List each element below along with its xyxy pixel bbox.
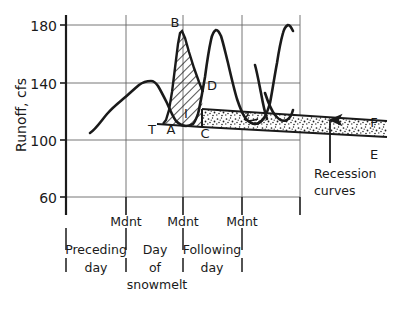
- annotation-recession-line2: curves: [314, 183, 356, 198]
- point-label-F: F: [370, 115, 377, 130]
- x-tick-label-midnight-1: Mdnt: [110, 214, 142, 229]
- point-label-D: D: [207, 78, 217, 93]
- annotation-recession-line1: Recession: [314, 166, 376, 181]
- x-tick-label-midnight-3: Mdnt: [226, 214, 258, 229]
- recession-band-region: [202, 109, 387, 137]
- x-tick-label-midnight-2: Mdnt: [167, 214, 199, 229]
- point-label-E: E: [370, 147, 378, 162]
- point-label-T: T: [147, 122, 156, 137]
- hydrograph-figure: 180 140 100 60 Runoff, cfs Mdnt Mdnt Mdn…: [0, 0, 399, 317]
- point-label-A: A: [167, 122, 176, 137]
- x-group-snowmelt-line3: snowmelt: [127, 277, 188, 292]
- y-tick-label-180: 180: [30, 18, 57, 34]
- y-tick-label-60: 60: [39, 190, 57, 206]
- y-axis: [60, 15, 66, 215]
- point-label-I: I: [184, 106, 188, 121]
- x-group-following-line1: Following: [183, 242, 242, 257]
- point-label-B: B: [171, 15, 180, 30]
- y-tick-label-140: 140: [30, 76, 57, 92]
- point-label-C: C: [200, 126, 209, 141]
- snowmelt-increment-region: [163, 31, 203, 127]
- x-group-preceding-line1: Preceding: [65, 242, 127, 257]
- x-group-preceding-line2: day: [85, 260, 109, 275]
- x-group-snowmelt-line1: Day: [143, 242, 168, 257]
- x-axis-midnight-ticks: [66, 197, 300, 215]
- chart-svg: 180 140 100 60 Runoff, cfs Mdnt Mdnt Mdn…: [0, 0, 399, 317]
- x-group-snowmelt-line2: of: [149, 260, 162, 275]
- x-group-following-line2: day: [201, 260, 225, 275]
- y-axis-title: Runoff, cfs: [13, 78, 29, 152]
- y-tick-label-100: 100: [30, 133, 57, 149]
